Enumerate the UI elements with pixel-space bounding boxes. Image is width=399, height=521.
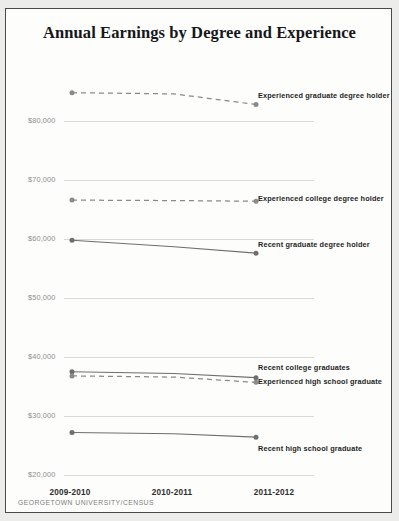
- series-label-experienced-high-school-graduate: Experienced high school graduate: [258, 377, 382, 386]
- series-label-recent-college-graduates: Recent college graduates: [258, 363, 350, 372]
- chart-card: Annual Earnings by Degree and Experience…: [5, 8, 392, 513]
- data-point-marker: [70, 198, 75, 203]
- x-tick-label-1: 2010-2011: [152, 488, 193, 497]
- series-label-experienced-college-degree-holder: Experienced college degree holder: [258, 194, 384, 203]
- plot-area: $20,000 $30,000 $40,000 $50,000 $60,000 …: [6, 9, 393, 514]
- data-point-marker: [70, 90, 75, 95]
- series-label-recent-high-school-graduate: Recent high school graduate: [258, 444, 362, 453]
- series-line-5: [72, 433, 256, 438]
- series-line-1: [72, 200, 256, 201]
- data-point-marker: [254, 251, 259, 256]
- series-line-0: [72, 93, 256, 105]
- series-lines: [6, 9, 393, 514]
- series-label-experienced-graduate-degree-holder: Experienced graduate degree holder: [258, 91, 390, 100]
- data-point-marker: [70, 430, 75, 435]
- data-point-marker: [254, 102, 259, 107]
- x-tick-label-2: 2011-2012: [254, 488, 295, 497]
- data-point-marker: [70, 238, 75, 243]
- source-attribution: GEORGETOWN UNIVERSITY/CENSUS: [18, 499, 154, 506]
- series-line-2: [72, 240, 256, 253]
- data-point-marker: [70, 373, 75, 378]
- data-point-marker: [254, 435, 259, 440]
- screenshot-root: Annual Earnings by Degree and Experience…: [0, 0, 399, 521]
- x-tick-label-0: 2009-2010: [50, 488, 91, 497]
- series-line-4: [72, 376, 256, 383]
- series-label-recent-graduate-degree-holder: Recent graduate degree holder: [258, 240, 370, 249]
